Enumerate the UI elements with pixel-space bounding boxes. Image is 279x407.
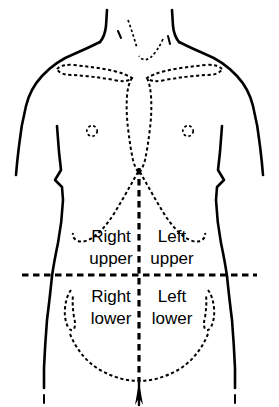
left-shoulder-arm-outline [16, 42, 100, 175]
nipple-right-icon [87, 126, 97, 136]
sternocleidomastoid-left-hint [168, 36, 170, 44]
neck-right-outline [172, 10, 179, 42]
iliac-crest-right-icon [65, 290, 75, 330]
suprasternal-notch-icon [139, 39, 163, 60]
anatomy-illustration: Right upper Left upper Right lower Left … [0, 0, 279, 407]
sternum-icon [127, 78, 152, 173]
quadrant-label-left-upper-line2: upper [150, 249, 194, 268]
sternocleidomastoid-right-hint [118, 31, 121, 38]
neck-left-outline [100, 10, 107, 42]
quadrant-label-left-upper-line1: Left [158, 227, 187, 246]
quadrant-label-left-lower-line1: Left [158, 287, 187, 306]
quadrant-label-right-lower-line2: lower [91, 309, 132, 328]
left-torso-flank-outline [44, 126, 63, 388]
quadrant-label-left-lower-line2: lower [152, 309, 193, 328]
abdominal-quadrants-figure: Right upper Left upper Right lower Left … [0, 0, 279, 407]
quadrant-label-right-upper-line1: Right [91, 227, 131, 246]
clavicle-left-icon [147, 65, 222, 81]
clavicle-right-icon [57, 65, 132, 81]
right-torso-flank-outline [216, 126, 235, 388]
trachea-line [128, 20, 137, 48]
iliac-crest-left-icon [204, 290, 214, 330]
quadrant-label-right-upper-line2: upper [89, 249, 133, 268]
right-shoulder-arm-outline [179, 42, 263, 175]
quadrant-label-right-lower-line1: Right [91, 287, 131, 306]
nipple-left-icon [183, 126, 193, 136]
